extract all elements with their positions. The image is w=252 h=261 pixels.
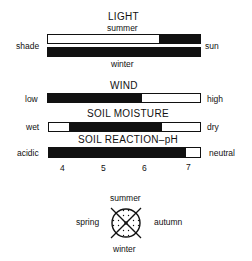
light-summer-fill — [159, 35, 200, 43]
soil-moisture-dry-label: dry — [207, 123, 219, 132]
season-winter-label: winter — [113, 245, 136, 254]
ph-tick-6: 6 — [142, 164, 147, 173]
light-winter-label: winter — [111, 60, 134, 69]
wind-title: WIND — [110, 81, 138, 91]
light-summer-bar — [47, 34, 201, 44]
ph-tick-7: 7 — [186, 163, 191, 172]
wind-bar — [47, 93, 201, 103]
soil-reaction-fill — [49, 148, 186, 157]
soil-moisture-title: SOIL MOISTURE — [87, 109, 169, 119]
soil-reaction-title: SOIL REACTION–pH — [78, 135, 178, 145]
season-spring-label: spring — [76, 218, 99, 227]
wind-high-label: high — [207, 95, 223, 104]
soil-reaction-acidic-label: acidic — [17, 149, 39, 158]
light-summer-label: summer — [107, 24, 138, 33]
season-autumn-label: autumn — [154, 218, 182, 227]
wind-fill — [48, 94, 142, 102]
soil-moisture-bar — [48, 122, 201, 132]
soil-moisture-fill — [69, 123, 163, 131]
light-winter-bar — [47, 47, 201, 57]
light-title: LIGHT — [108, 12, 139, 22]
soil-reaction-neutral-label: neutral — [209, 149, 235, 158]
ph-tick-5: 5 — [101, 164, 106, 173]
light-shade-label: shade — [16, 42, 39, 51]
season-circle-icon — [106, 203, 146, 243]
soil-moisture-wet-label: wet — [26, 123, 39, 132]
wind-low-label: low — [25, 95, 38, 104]
soil-reaction-bar — [48, 147, 201, 158]
light-sun-label: sun — [205, 42, 219, 51]
ph-tick-4: 4 — [60, 164, 65, 173]
season-summer-label: summer — [110, 194, 141, 203]
